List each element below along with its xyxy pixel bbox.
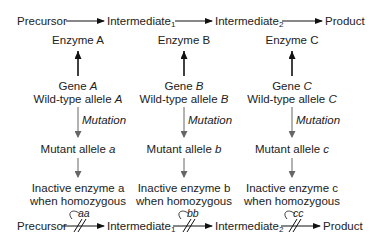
wildtype-prefix: Wild-type allele bbox=[247, 93, 328, 105]
inactive-b-line2: when homozygous bbox=[136, 195, 232, 208]
gene-prefix: Gene bbox=[272, 80, 303, 92]
subscript-1: 1 bbox=[171, 225, 175, 234]
wildtype-prefix: Wild-type allele bbox=[34, 93, 115, 105]
gene-letter: A bbox=[90, 80, 98, 92]
enzyme-b-label: Enzyme B bbox=[158, 34, 210, 47]
mutation-a-label: Mutation bbox=[82, 114, 126, 127]
bottom-precursor-label: Precursor bbox=[17, 220, 67, 233]
mutant-a-label: Mutant allele a bbox=[41, 143, 116, 156]
top-product-label: Product bbox=[325, 15, 365, 28]
wildtype-b-label: Wild-type allele B bbox=[140, 93, 229, 106]
genotype-cc-label: cc bbox=[293, 207, 304, 220]
genotype-aa-label: aa bbox=[78, 207, 90, 220]
mutant-letter: a bbox=[109, 143, 115, 155]
top-intermediate1-label: Intermediate1 bbox=[107, 15, 175, 28]
gene-b-label: Gene B bbox=[165, 80, 204, 93]
top-intermediate2-label: Intermediate2 bbox=[215, 15, 283, 28]
wildtype-letter: A bbox=[115, 93, 123, 105]
wildtype-prefix: Wild-type allele bbox=[140, 93, 221, 105]
subscript-1: 1 bbox=[171, 20, 175, 29]
genotype-bb-label: bb bbox=[187, 207, 199, 220]
enzyme-c-label: Enzyme C bbox=[265, 34, 318, 47]
gene-prefix: Gene bbox=[165, 80, 196, 92]
wildtype-letter: C bbox=[328, 93, 336, 105]
mutant-prefix: Mutant allele bbox=[41, 143, 109, 155]
inactive-c-line2: when homozygous bbox=[244, 195, 340, 208]
intermediate1-text: Intermediate bbox=[107, 220, 171, 232]
enzyme-a-label: Enzyme A bbox=[52, 34, 104, 47]
gene-letter: B bbox=[196, 80, 204, 92]
gene-to-enzyme-arrows bbox=[78, 51, 292, 76]
mutant-prefix: Mutant allele bbox=[255, 143, 323, 155]
mutant-b-label: Mutant allele b bbox=[147, 143, 222, 156]
mutant-c-label: Mutant allele c bbox=[255, 143, 329, 156]
mutant-letter: b bbox=[215, 143, 221, 155]
mutation-b-label: Mutation bbox=[188, 114, 232, 127]
bottom-product-label: Product bbox=[323, 220, 363, 233]
subscript-2: 2 bbox=[279, 20, 283, 29]
subscript-2: 2 bbox=[279, 225, 283, 234]
mutant-letter: c bbox=[323, 143, 329, 155]
wildtype-c-label: Wild-type allele C bbox=[247, 93, 336, 106]
mutant-prefix: Mutant allele bbox=[147, 143, 215, 155]
inactive-b-line1: Inactive enzyme b bbox=[138, 182, 231, 195]
bottom-intermediate1-label: Intermediate1 bbox=[107, 220, 175, 233]
wildtype-a-label: Wild-type allele A bbox=[34, 93, 123, 106]
wildtype-letter: B bbox=[221, 93, 229, 105]
mutant-to-inactive-arrows bbox=[78, 158, 292, 177]
gene-prefix: Gene bbox=[59, 80, 90, 92]
inactive-c-line1: Inactive enzyme c bbox=[246, 182, 338, 195]
intermediate1-text: Intermediate bbox=[107, 15, 171, 27]
gene-a-label: Gene A bbox=[59, 80, 98, 93]
intermediate2-text: Intermediate bbox=[215, 220, 279, 232]
mutation-c-label: Mutation bbox=[296, 114, 340, 127]
gene-c-label: Gene C bbox=[272, 80, 312, 93]
top-precursor-label: Precursor bbox=[17, 15, 67, 28]
bottom-intermediate2-label: Intermediate2 bbox=[215, 220, 283, 233]
inactive-a-line1: Inactive enzyme a bbox=[32, 182, 125, 195]
intermediate2-text: Intermediate bbox=[215, 15, 279, 27]
gene-letter: C bbox=[304, 80, 312, 92]
